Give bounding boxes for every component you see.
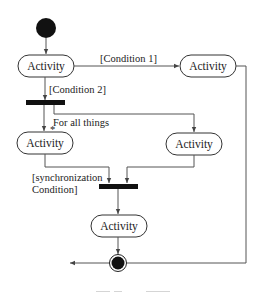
activity-1-label: Activity bbox=[27, 60, 65, 73]
guard-sync-line1: [synchronization bbox=[32, 172, 103, 183]
activity-diagram: Activity [Condition 1] Activity [Conditi… bbox=[0, 0, 264, 295]
activity-4-label: Activity bbox=[175, 138, 213, 151]
join-bar bbox=[99, 184, 138, 189]
caption-remnant bbox=[96, 291, 170, 292]
activity-node-5: Activity bbox=[91, 215, 147, 237]
initial-node bbox=[36, 18, 56, 38]
activity-node-1: Activity bbox=[18, 55, 74, 77]
activity-3-label: Activity bbox=[26, 137, 64, 150]
activity-node-2: Activity bbox=[180, 55, 236, 77]
activity-2-label: Activity bbox=[189, 60, 227, 73]
guard-condition-1: [Condition 1] bbox=[100, 53, 157, 64]
fork-bar bbox=[26, 100, 65, 105]
final-node bbox=[110, 255, 127, 272]
activity-node-4: Activity bbox=[166, 133, 222, 155]
guard-sync-line2: Condition] bbox=[32, 184, 78, 195]
guard-condition-2: [Condition 2] bbox=[49, 84, 106, 95]
note-for-all-things: For all things bbox=[53, 117, 109, 128]
activity-node-3: Activity bbox=[17, 132, 73, 154]
activity-5-label: Activity bbox=[100, 220, 138, 233]
